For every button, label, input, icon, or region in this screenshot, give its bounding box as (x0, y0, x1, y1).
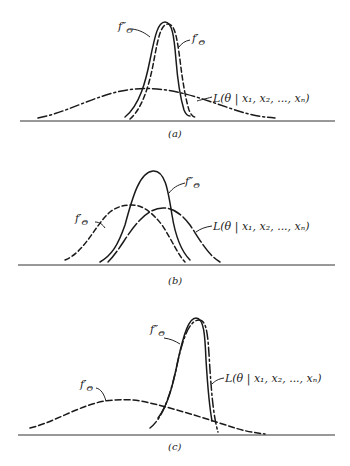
leader-posterior-c (164, 338, 180, 344)
likelihood-label-c: L(θ | x₁, x₂, ..., xₙ) (224, 372, 322, 386)
prior-label-a: f′Θ (191, 32, 206, 47)
caption-b: (b) (168, 275, 182, 286)
panel-c: f″Θ f′Θ L(θ | x₁, x₂, ..., xₙ) (c) (18, 318, 335, 452)
caption-c: (c) (168, 441, 182, 452)
posterior-label-c: f″Θ (149, 323, 165, 338)
leader-posterior-b (169, 183, 185, 193)
posterior-curve-a (125, 22, 190, 117)
prior-curve-a (130, 24, 195, 119)
leader-posterior-a (132, 29, 150, 37)
leader-prior-a (179, 40, 190, 47)
leader-prior-c (96, 388, 106, 401)
prior-label-c: f′Θ (79, 378, 94, 393)
likelihood-label-a: L(θ | x₁, x₂, ..., xₙ) (212, 92, 310, 106)
panel-a: f″Θ f′Θ L(θ | x₁, x₂, ..., xₙ) (a) (20, 20, 335, 139)
caption-a: (a) (168, 128, 182, 139)
posterior-label-b: f″Θ (184, 175, 200, 190)
likelihood-curve-b (108, 208, 220, 262)
bayes-figure: f″Θ f′Θ L(θ | x₁, x₂, ..., xₙ) (a) f″Θ f… (0, 0, 350, 466)
leader-likelihood-b (196, 226, 212, 232)
panel-b: f″Θ f′Θ L(θ | x₁, x₂, ..., xₙ) (b) (18, 171, 335, 286)
posterior-label-a: f″Θ (117, 20, 133, 35)
leader-prior-b (95, 222, 105, 228)
prior-curve-c (30, 400, 265, 434)
leader-likelihood-c (212, 378, 224, 384)
posterior-curve-c (158, 318, 212, 421)
prior-label-b: f′Θ (74, 212, 89, 227)
likelihood-label-b: L(θ | x₁, x₂, ..., xₙ) (212, 220, 310, 234)
prior-curve-b (65, 205, 185, 262)
